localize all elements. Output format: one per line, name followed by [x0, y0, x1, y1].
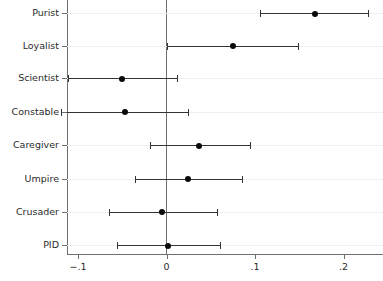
- y-axis-tick: [62, 145, 67, 146]
- x-axis-tick: [78, 254, 79, 259]
- estimate-marker: [159, 209, 165, 215]
- x-axis-tick: [167, 254, 168, 259]
- y-axis-label-constable: Constable: [12, 107, 59, 117]
- ci-lower-cap: [117, 242, 118, 249]
- ci-upper-cap: [217, 209, 218, 216]
- estimate-marker: [185, 176, 191, 182]
- y-axis-label-crusader: Crusader: [16, 207, 59, 217]
- y-axis-label-caregiver: Caregiver: [13, 140, 59, 150]
- y-axis-label-purist: Purist: [32, 8, 59, 18]
- estimate-marker: [312, 11, 318, 17]
- ci-upper-cap: [368, 10, 369, 17]
- x-axis-label-2: .1: [235, 261, 275, 272]
- y-axis-tick: [62, 212, 67, 213]
- x-axis-tick: [255, 254, 256, 259]
- estimate-marker: [165, 243, 171, 249]
- ci-lower-cap: [68, 75, 69, 82]
- coefficient-plot: PuristLoyalistScientistConstableCaregive…: [0, 0, 383, 281]
- ci-upper-cap: [298, 43, 299, 50]
- estimate-marker: [196, 143, 202, 149]
- y-axis-tick: [62, 46, 67, 47]
- ci-lower-cap: [150, 142, 151, 149]
- estimate-marker: [230, 43, 236, 49]
- plot-area: PuristLoyalistScientistConstableCaregive…: [0, 0, 383, 281]
- x-axis-line: [67, 254, 383, 255]
- estimate-marker: [119, 76, 125, 82]
- y-axis-tick: [62, 78, 67, 79]
- gridline: [67, 245, 383, 246]
- ci-upper-cap: [220, 242, 221, 249]
- x-axis-label-3: .2: [324, 261, 364, 272]
- ci-lower-cap: [135, 176, 136, 183]
- ci-upper-cap: [188, 109, 189, 116]
- y-axis-label-umpire: Umpire: [25, 174, 59, 184]
- ci-lower-cap: [167, 43, 168, 50]
- y-axis-label-loyalist: Loyalist: [23, 41, 59, 51]
- zero-reference-line: [166, 0, 167, 254]
- y-axis-line: [67, 0, 68, 255]
- y-axis-tick: [62, 179, 67, 180]
- y-axis-label-scientist: Scientist: [18, 73, 59, 83]
- ci-upper-cap: [177, 75, 178, 82]
- ci-upper-cap: [250, 142, 251, 149]
- x-axis-label-0: −.1: [58, 261, 98, 272]
- y-axis-label-pid: PID: [43, 240, 59, 250]
- ci-lower-cap: [109, 209, 110, 216]
- ci-lower-cap: [260, 10, 261, 17]
- y-axis-tick: [62, 13, 67, 14]
- x-axis-label-1: 0: [147, 261, 187, 272]
- estimate-marker: [122, 109, 128, 115]
- ci-upper-cap: [242, 176, 243, 183]
- x-axis-tick: [344, 254, 345, 259]
- y-axis-tick: [62, 112, 67, 113]
- y-axis-tick: [62, 245, 67, 246]
